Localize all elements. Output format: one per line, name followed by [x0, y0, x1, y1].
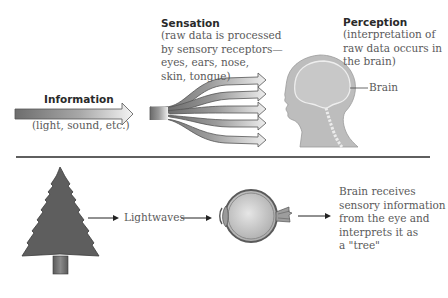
arrow-eye-to-brain	[298, 213, 331, 219]
tree-illustration	[22, 167, 99, 274]
sensation-line-4: skin, tongue)	[161, 70, 283, 84]
human-head-illustration	[285, 55, 368, 147]
sensation-line-1: (raw data is processed	[161, 29, 283, 43]
sensation-line-3: eyes, ears, nose,	[161, 56, 283, 70]
information-title: Information	[44, 93, 114, 105]
sensation-line-2: by sensory receptors—	[161, 43, 283, 57]
result-line-5: a "tree"	[339, 239, 446, 253]
eye-illustration	[220, 190, 292, 242]
arrow-lightwaves-to-eye	[181, 215, 212, 221]
result-line-3: from the eye and	[339, 212, 446, 226]
sensation-label: Sensation (raw data is processed by sens…	[161, 17, 283, 83]
result-line-1: Brain receives	[339, 185, 446, 199]
perception-line-3: the brain)	[343, 55, 442, 69]
result-line-2: sensory information	[339, 199, 446, 213]
lightwaves-label: Lightwaves	[124, 211, 185, 225]
sensation-title: Sensation	[161, 17, 283, 29]
brain-interpretation-text: Brain receives sensory information from …	[339, 185, 446, 253]
result-line-4: interprets it as	[339, 226, 446, 240]
perception-line-1: (interpretation of	[343, 28, 442, 42]
brain-label: Brain	[369, 81, 398, 95]
arrow-tree-to-lightwaves	[88, 215, 119, 221]
perception-title: Perception	[343, 16, 442, 28]
information-subtitle: (light, sound, etc.)	[32, 119, 130, 133]
perception-label: Perception (interpretation of raw data o…	[343, 16, 442, 69]
sensation-fan-arrows	[150, 73, 266, 147]
perception-line-2: raw data occurs in	[343, 42, 442, 56]
